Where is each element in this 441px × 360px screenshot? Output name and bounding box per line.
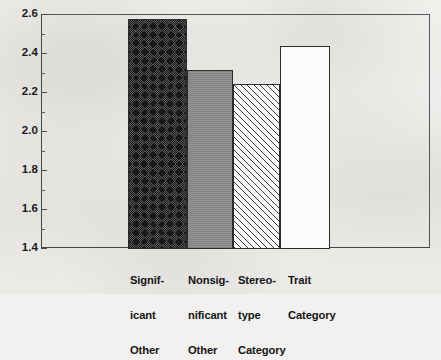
y-major-tick [41, 131, 47, 132]
y-tick-label-1.6: 1.6 [22, 203, 38, 215]
x-label-line-2: icant [130, 310, 190, 322]
y-tick-label-2.2: 2.2 [22, 86, 38, 98]
x-label-trait-category: Trait Category [288, 252, 358, 345]
y-major-tick [41, 248, 47, 249]
y-tick-label-1.8: 1.8 [22, 164, 38, 176]
x-label-line-3: Category [238, 345, 300, 357]
y-tick-label-2.6: 2.6 [22, 8, 38, 20]
bar-trait-category[interactable] [280, 46, 330, 249]
x-label-line-3: Other [130, 345, 190, 357]
bar-nonsignificant-other[interactable] [187, 70, 233, 249]
y-tick-label-2.4: 2.4 [22, 47, 38, 59]
y-minor-tick [41, 112, 45, 113]
bar-stereotype-category[interactable] [233, 84, 280, 249]
y-axis-tick-labels: 2.6 2.4 2.2 2.0 1.8 1.6 1.4 [0, 0, 38, 294]
y-major-tick [41, 170, 47, 171]
x-label-line-2: Category [288, 310, 358, 322]
y-minor-tick [41, 73, 45, 74]
x-label-significant-other: Signif- icant Other [130, 252, 190, 360]
y-minor-tick [41, 190, 45, 191]
y-major-tick [41, 92, 47, 93]
y-minor-tick [41, 229, 45, 230]
bar-significant-other[interactable] [128, 19, 187, 249]
y-major-tick [41, 209, 47, 210]
y-minor-tick [41, 151, 45, 152]
x-label-line-1: Trait [288, 275, 358, 287]
y-tick-label-1.4: 1.4 [22, 242, 38, 254]
y-major-tick [41, 53, 47, 54]
y-major-tick [41, 14, 47, 15]
y-tick-label-2.0: 2.0 [22, 125, 38, 137]
y-minor-tick [41, 34, 45, 35]
x-label-line-1: Signif- [130, 275, 190, 287]
